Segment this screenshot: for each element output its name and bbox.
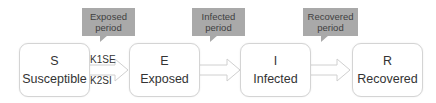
node-susceptible: S Susceptible	[19, 43, 90, 97]
callout-line: Infected	[202, 11, 236, 22]
node-name: Recovered	[357, 70, 417, 88]
callout-recovered-period: Recoveredperiod	[303, 8, 358, 36]
callout-infected-period: Infectedperiod	[192, 8, 245, 36]
node-name: Infected	[253, 70, 297, 88]
arrow-i-to-r	[309, 58, 351, 82]
callout-line: Recovered	[308, 11, 354, 22]
node-recovered: R Recovered	[352, 43, 423, 97]
node-infected: I Infected	[240, 43, 311, 97]
callout-line: period	[95, 22, 121, 33]
node-name: Susceptible	[22, 70, 87, 88]
callout-line: Exposed	[90, 11, 127, 22]
node-letter: I	[274, 52, 277, 70]
callout-line: period	[205, 22, 231, 33]
rate-label-k1se: K1SE	[90, 54, 116, 65]
node-exposed: E Exposed	[129, 43, 200, 97]
node-letter: R	[383, 52, 392, 70]
callout-line: period	[317, 22, 343, 33]
rate-label-k2si: K2SI	[90, 75, 112, 86]
node-letter: E	[160, 52, 168, 70]
node-name: Exposed	[140, 70, 189, 88]
node-letter: S	[50, 52, 58, 70]
arrow-e-to-i	[199, 58, 241, 82]
callout-exposed-period: Exposedperiod	[82, 8, 135, 36]
